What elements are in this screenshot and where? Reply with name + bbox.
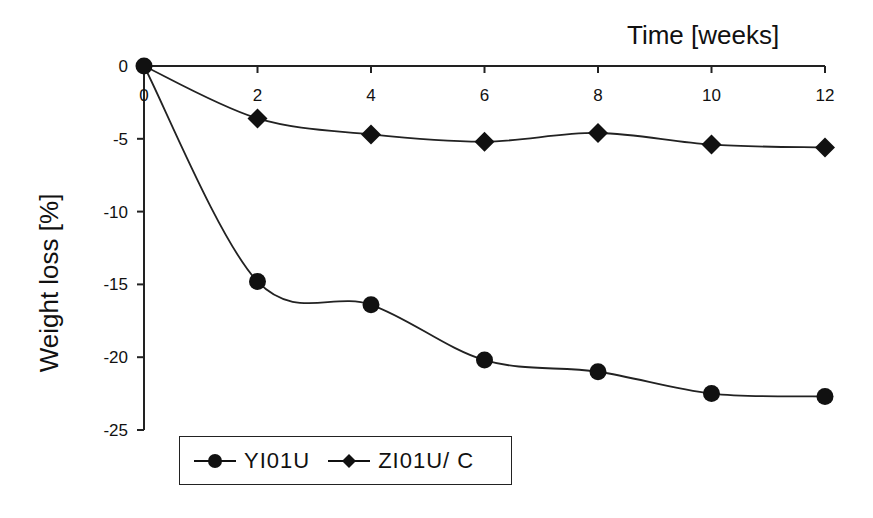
diamond-marker-icon <box>815 138 835 158</box>
x-tick-label: 0 <box>139 86 148 105</box>
x-tick-label: 6 <box>480 86 489 105</box>
diamond-marker-icon <box>248 108 268 128</box>
x-tick-label: 8 <box>593 86 602 105</box>
series-line <box>144 66 825 397</box>
circle-marker-icon <box>590 363 607 380</box>
y-axis-title: Weight loss [%] <box>34 194 64 373</box>
circle-marker-icon <box>363 296 380 313</box>
y-tick-label: 0 <box>119 57 128 76</box>
circle-marker-icon <box>136 58 153 75</box>
y-tick-label: -5 <box>113 130 128 149</box>
x-axis-title: Time [weeks] <box>627 20 779 50</box>
diamond-marker-icon <box>361 124 381 144</box>
legend-label: ZI01U/ C <box>378 448 474 474</box>
circle-marker-icon <box>817 388 834 405</box>
axes: 0246810120-5-10-15-20-25 <box>103 57 834 440</box>
diamond-marker-icon <box>702 135 722 155</box>
x-tick-label: 12 <box>816 86 835 105</box>
y-tick-label: -15 <box>103 275 128 294</box>
circle-marker-icon <box>249 273 266 290</box>
x-tick-label: 10 <box>702 86 721 105</box>
diamond-marker-icon <box>326 451 372 471</box>
legend-item-zi01u-c: ZI01U/ C <box>326 448 474 474</box>
series-group <box>136 58 836 406</box>
circle-marker-icon <box>703 385 720 402</box>
circle-marker-icon <box>192 451 238 471</box>
circle-marker-icon <box>476 352 493 369</box>
legend-item-yi01u: YI01U <box>192 448 310 474</box>
y-tick-label: -25 <box>103 421 128 440</box>
diamond-marker-icon <box>475 132 495 152</box>
x-tick-label: 4 <box>366 86 375 105</box>
y-tick-label: -10 <box>103 203 128 222</box>
x-tick-label: 2 <box>253 86 262 105</box>
legend: YI01U ZI01U/ C <box>179 436 512 485</box>
diamond-marker-icon <box>588 123 608 143</box>
legend-label: YI01U <box>244 448 310 474</box>
y-tick-label: -20 <box>103 348 128 367</box>
